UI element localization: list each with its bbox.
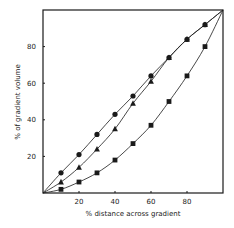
data-point-circle xyxy=(94,132,99,137)
data-point-triangle xyxy=(58,179,64,185)
data-point-square xyxy=(149,123,154,128)
data-point-square xyxy=(113,158,118,163)
data-point-square xyxy=(167,99,172,104)
data-point-square xyxy=(185,73,190,78)
data-point-square xyxy=(131,141,136,146)
chart: 2040608020406080 % distance across gradi… xyxy=(0,0,234,228)
x-tick-label: 80 xyxy=(183,198,192,206)
data-point-square xyxy=(95,170,100,175)
x-axis-label: % distance across gradient xyxy=(86,210,181,218)
data-point-circle xyxy=(112,112,117,117)
x-tick-label: 40 xyxy=(111,198,120,206)
axis-ticks: 2040608020406080 xyxy=(27,43,191,206)
data-point-square xyxy=(203,44,208,49)
data-point-circle xyxy=(76,152,81,157)
y-axis-label: % of gradient volume xyxy=(14,64,22,140)
series-layer xyxy=(43,10,223,193)
x-tick-label: 60 xyxy=(147,198,156,206)
data-point-circle xyxy=(148,73,153,78)
y-tick-label: 60 xyxy=(27,80,36,88)
y-tick-label: 20 xyxy=(27,153,36,161)
data-point-circle xyxy=(130,93,135,98)
x-tick-label: 20 xyxy=(75,198,84,206)
data-point-circle xyxy=(58,170,63,175)
data-point-square xyxy=(77,180,82,185)
series-triangles xyxy=(43,10,223,193)
y-tick-label: 80 xyxy=(27,43,36,51)
y-tick-label: 40 xyxy=(27,116,36,124)
data-point-square xyxy=(59,187,64,192)
